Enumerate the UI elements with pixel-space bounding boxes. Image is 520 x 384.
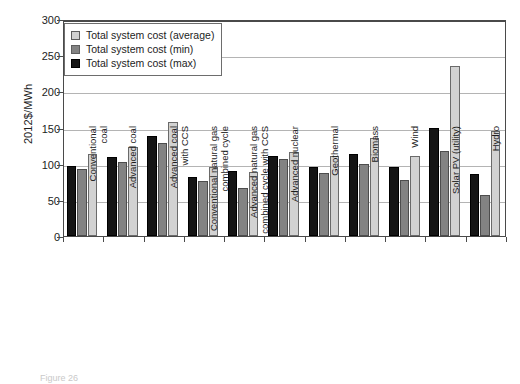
x-axis-tick-mark bbox=[63, 237, 64, 242]
bar-min bbox=[400, 180, 410, 236]
legend-label: Total system cost (max) bbox=[86, 57, 196, 69]
figure-container: 2012$/MWh 300250200150100500 Conventiona… bbox=[0, 0, 520, 384]
legend-label: Total system cost (average) bbox=[86, 29, 214, 41]
y-axis-tick-label: 100 bbox=[20, 160, 60, 170]
bar-max bbox=[147, 136, 157, 236]
x-axis-tick-mark bbox=[425, 237, 426, 242]
bar-max bbox=[470, 174, 480, 236]
chart-legend: Total system cost (average)Total system … bbox=[64, 23, 222, 76]
bar-min bbox=[440, 151, 450, 236]
legend-item: Total system cost (max) bbox=[71, 56, 214, 70]
bar-min bbox=[319, 173, 329, 236]
bar-min bbox=[238, 188, 248, 236]
bar-min bbox=[158, 143, 168, 236]
x-axis-category-label: Solar PV (utility) bbox=[451, 126, 462, 246]
x-axis-category-label: Wind bbox=[410, 126, 421, 246]
x-axis-tick-mark bbox=[385, 237, 386, 242]
y-axis-tick-label: 250 bbox=[20, 51, 60, 61]
figure-caption: Figure 26 bbox=[40, 373, 78, 383]
x-axis-tick-mark bbox=[144, 237, 145, 242]
x-axis-tick-mark bbox=[466, 237, 467, 242]
bar-max bbox=[389, 167, 399, 236]
bar-min bbox=[118, 162, 128, 236]
bar-max bbox=[349, 154, 359, 236]
legend-swatch-max-icon bbox=[71, 59, 80, 68]
bar-min bbox=[198, 181, 208, 236]
x-axis-category-label: Geothermal bbox=[330, 126, 341, 246]
y-axis-tick-label: 0 bbox=[20, 232, 60, 242]
bar-max bbox=[429, 128, 439, 237]
y-axis-tick-label: 200 bbox=[20, 87, 60, 97]
x-axis-category-label: Biomass bbox=[370, 126, 381, 246]
y-axis-tick-label: 300 bbox=[20, 15, 60, 25]
legend-item: Total system cost (min) bbox=[71, 42, 214, 56]
x-axis-category-label: Conventional coal bbox=[88, 126, 109, 246]
x-axis-tick-mark bbox=[506, 237, 507, 242]
legend-swatch-avg-icon bbox=[71, 31, 80, 40]
x-axis-category-label: Advanced nuclear bbox=[290, 126, 301, 246]
legend-swatch-min-icon bbox=[71, 45, 80, 54]
y-axis-tick-label: 50 bbox=[20, 196, 60, 206]
bar-max bbox=[67, 166, 77, 236]
bar-min bbox=[77, 169, 87, 236]
bar-min bbox=[359, 164, 369, 236]
bar-min bbox=[279, 159, 289, 236]
x-axis-category-label: Advanced coal with CCS bbox=[169, 126, 190, 246]
bar-min bbox=[480, 195, 490, 236]
x-axis-tick-mark bbox=[345, 237, 346, 242]
legend-item: Total system cost (average) bbox=[71, 28, 214, 42]
x-axis-category-label: Hydro bbox=[491, 126, 502, 246]
x-axis-category-label: Advanced coal bbox=[128, 126, 139, 246]
x-axis-category-label: Advanced natural gas combined cycle with… bbox=[249, 126, 270, 246]
y-axis-tick-label: 150 bbox=[20, 124, 60, 134]
legend-label: Total system cost (min) bbox=[86, 43, 193, 55]
x-axis-category-label: Conventional natural gas combined cycle bbox=[209, 126, 230, 246]
bar-max bbox=[309, 167, 319, 236]
x-axis-tick-mark bbox=[305, 237, 306, 242]
